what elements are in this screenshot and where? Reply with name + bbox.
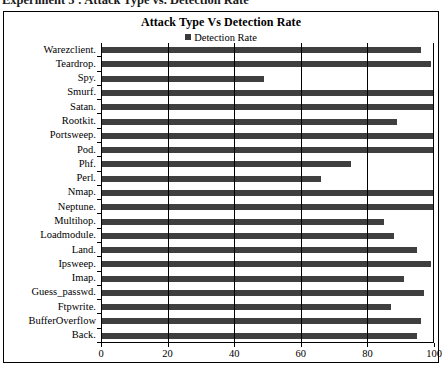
bar: [101, 147, 434, 153]
y-axis-label: Smurf.: [67, 87, 96, 98]
x-axis-tick-label: 20: [162, 348, 173, 359]
bar: [101, 190, 434, 196]
bar-row: Smurf.: [101, 86, 434, 100]
bar-row: Nmap.: [101, 186, 434, 200]
bar: [101, 61, 431, 67]
y-axis-label: Portsweep.: [50, 130, 96, 141]
y-axis-label: BufferOverflow: [29, 316, 96, 327]
bar: [101, 233, 394, 239]
x-axis-tick: [434, 343, 435, 347]
y-axis-label: Back.: [72, 330, 96, 341]
x-axis-tick-labels: 020406080100: [101, 344, 434, 360]
figure-caption: Experiment 5 : Attack Type vs. Detection…: [0, 0, 444, 11]
plot-area: Warezclient.Teardrop.Spy.Smurf.Satan.Roo…: [101, 43, 434, 343]
bar-row: Satan.: [101, 100, 434, 114]
bar: [101, 247, 417, 253]
bar: [101, 204, 434, 210]
y-axis-label: Satan.: [70, 102, 96, 113]
y-axis-label: Perl.: [76, 173, 96, 184]
bar-row: Warezclient.: [101, 43, 434, 57]
bar-row: Phf.: [101, 157, 434, 171]
bar-row: BufferOverflow: [101, 314, 434, 328]
x-axis-tick-label: 80: [362, 348, 373, 359]
y-axis-label: Teardrop.: [56, 59, 96, 70]
y-axis-label: Pod.: [77, 145, 96, 156]
chart-title: Attack Type Vs Detection Rate: [4, 15, 438, 30]
bar-row: Neptune.: [101, 200, 434, 214]
y-axis-label: Imap.: [72, 273, 96, 284]
y-axis-label: Nmap.: [68, 187, 96, 198]
legend-label: Detection Rate: [194, 32, 257, 43]
bar-row: Perl.: [101, 172, 434, 186]
bar-rows: Warezclient.Teardrop.Spy.Smurf.Satan.Roo…: [101, 43, 434, 343]
legend-swatch-icon: [185, 34, 191, 40]
y-axis-label: Neptune.: [58, 202, 96, 213]
bar: [101, 304, 391, 310]
bar-row: Rootkit.: [101, 114, 434, 128]
x-axis-tick-label: 40: [229, 348, 240, 359]
gridline: [367, 43, 368, 343]
x-axis-tick-label: 0: [98, 348, 103, 359]
gridline: [168, 43, 169, 343]
figure-caption-text: Experiment 5 : Attack Type vs. Detection…: [2, 0, 249, 8]
gridline: [234, 43, 235, 343]
bar-row: Pod.: [101, 143, 434, 157]
bar: [101, 133, 434, 139]
x-axis-tick-label: 60: [296, 348, 307, 359]
y-axis-label: Guess_passwd.: [32, 287, 96, 298]
bar: [101, 90, 434, 96]
bar-row: Ipsweep.: [101, 257, 434, 271]
bar: [101, 47, 421, 53]
bar: [101, 276, 404, 282]
bar-row: Imap.: [101, 272, 434, 286]
bar-row: Guess_passwd.: [101, 286, 434, 300]
bar-row: Spy.: [101, 72, 434, 86]
chart-legend: Detection Rate: [4, 31, 438, 43]
y-axis-label: Ftpwrite.: [58, 302, 96, 313]
y-axis-label: Phf.: [79, 159, 96, 170]
y-axis-label: Loadmodule.: [40, 230, 96, 241]
bar-row: Portsweep.: [101, 129, 434, 143]
bar-row: Teardrop.: [101, 57, 434, 71]
y-axis-label: Multihop.: [54, 216, 96, 227]
bar-row: Ftpwrite.: [101, 300, 434, 314]
bar-row: Land.: [101, 243, 434, 257]
bar: [101, 161, 351, 167]
bar-row: Loadmodule.: [101, 229, 434, 243]
chart-container: Attack Type Vs Detection Rate Detection …: [3, 11, 439, 363]
bar: [101, 76, 264, 82]
bar: [101, 333, 417, 339]
y-axis-label: Rootkit.: [62, 116, 96, 127]
y-axis-label: Warezclient.: [44, 45, 97, 56]
bar: [101, 104, 434, 110]
y-axis-label: Spy.: [78, 73, 96, 84]
bar: [101, 219, 384, 225]
bar: [101, 119, 397, 125]
y-axis-label: Ipsweep.: [58, 259, 96, 270]
gridline: [301, 43, 302, 343]
bar: [101, 176, 321, 182]
bar-row: Multihop.: [101, 214, 434, 228]
bar: [101, 318, 421, 324]
bar: [101, 261, 431, 267]
bar-row: Back.: [101, 329, 434, 343]
x-axis-tick-label: 100: [426, 348, 442, 359]
y-axis-label: Land.: [72, 245, 96, 256]
bar: [101, 290, 424, 296]
